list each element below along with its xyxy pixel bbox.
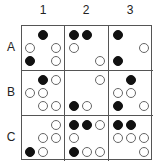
- filled-circle-icon: [38, 30, 48, 40]
- grid-cell-a1: [22, 26, 65, 71]
- grid-cell-b1: [22, 71, 65, 116]
- cell-slot: [111, 132, 124, 146]
- cell-slot: [24, 41, 37, 54]
- cell-slot: [49, 118, 62, 132]
- cell-slot: [93, 55, 106, 68]
- cell-slot: [49, 86, 62, 99]
- open-circle-icon: [69, 43, 79, 53]
- cell-slot: [124, 86, 137, 99]
- cell-slot: [37, 145, 50, 159]
- cell-slot: [111, 73, 124, 86]
- open-circle-icon: [25, 43, 35, 53]
- open-circle-icon: [38, 88, 48, 98]
- filled-circle-icon: [82, 120, 92, 130]
- open-circle-icon: [95, 147, 105, 157]
- cell-slot: [111, 28, 124, 41]
- cell-slot: [49, 132, 62, 146]
- cell-slot: [138, 145, 151, 159]
- cell-slot: [138, 86, 151, 99]
- open-circle-icon: [38, 101, 48, 111]
- cell-slot: [80, 28, 93, 41]
- cell-slot: [80, 118, 93, 132]
- filled-circle-icon: [69, 30, 79, 40]
- cell-slot: [138, 118, 151, 132]
- cell-slot: [111, 86, 124, 99]
- filled-circle-icon: [126, 75, 136, 85]
- open-circle-icon: [139, 147, 149, 157]
- open-circle-icon: [95, 120, 105, 130]
- open-circle-icon: [51, 101, 61, 111]
- cell-slot: [124, 55, 137, 68]
- cell-slot: [67, 73, 80, 86]
- cell-slot: [37, 132, 50, 146]
- cell-slot: [49, 28, 62, 41]
- filled-circle-icon: [38, 75, 48, 85]
- cell-slot: [37, 86, 50, 99]
- cell-slot: [80, 145, 93, 159]
- row-label-a: A: [4, 40, 18, 54]
- cell-slot: [124, 41, 137, 54]
- open-circle-icon: [51, 133, 61, 143]
- grid-cell-c1: [22, 116, 65, 161]
- column-label-2: 2: [64, 3, 108, 17]
- filled-circle-icon: [113, 120, 123, 130]
- filled-circle-icon: [82, 30, 92, 40]
- column-label-3: 3: [108, 3, 152, 17]
- filled-circle-icon: [69, 101, 79, 111]
- grid-cell-a3: [109, 26, 153, 71]
- grid-cell-b2: [65, 71, 109, 116]
- cell-slot: [138, 28, 151, 41]
- cell-slot: [124, 100, 137, 113]
- cell-slot: [93, 86, 106, 99]
- row-label-c: C: [4, 130, 18, 144]
- cell-slot: [24, 118, 37, 132]
- cell-slot: [138, 73, 151, 86]
- cell-slot: [49, 55, 62, 68]
- cell-slot: [93, 28, 106, 41]
- cell-slot: [124, 73, 137, 86]
- cell-slot: [93, 118, 106, 132]
- open-circle-icon: [38, 133, 48, 143]
- open-circle-icon: [51, 43, 61, 53]
- cell-slot: [124, 132, 137, 146]
- cell-slot: [24, 132, 37, 146]
- open-circle-icon: [25, 88, 35, 98]
- open-circle-icon: [126, 88, 136, 98]
- cell-slot: [67, 145, 80, 159]
- cell-slot: [111, 41, 124, 54]
- filled-circle-icon: [69, 120, 79, 130]
- puzzle-grid: [21, 25, 152, 160]
- row-label-b: B: [4, 85, 18, 99]
- cell-slot: [111, 118, 124, 132]
- grid-cell-c2: [65, 116, 109, 161]
- cell-slot: [93, 132, 106, 146]
- open-circle-icon: [113, 88, 123, 98]
- cell-slot: [49, 145, 62, 159]
- cell-slot: [93, 73, 106, 86]
- cell-slot: [24, 73, 37, 86]
- cell-slot: [37, 41, 50, 54]
- cell-slot: [24, 100, 37, 113]
- cell-slot: [67, 55, 80, 68]
- cell-slot: [124, 145, 137, 159]
- cell-slot: [138, 132, 151, 146]
- filled-circle-icon: [25, 56, 35, 66]
- cell-slot: [37, 28, 50, 41]
- cell-slot: [67, 41, 80, 54]
- cell-slot: [124, 118, 137, 132]
- open-circle-icon: [139, 43, 149, 53]
- open-circle-icon: [82, 147, 92, 157]
- cell-slot: [24, 86, 37, 99]
- cell-slot: [138, 55, 151, 68]
- cell-slot: [80, 100, 93, 113]
- cell-slot: [80, 73, 93, 86]
- open-circle-icon: [51, 120, 61, 130]
- cell-slot: [80, 41, 93, 54]
- filled-circle-icon: [113, 30, 123, 40]
- cell-slot: [111, 145, 124, 159]
- cell-slot: [49, 73, 62, 86]
- filled-circle-icon: [25, 147, 35, 157]
- filled-circle-icon: [69, 147, 79, 157]
- cell-slot: [24, 55, 37, 68]
- grid-cell-c3: [109, 116, 153, 161]
